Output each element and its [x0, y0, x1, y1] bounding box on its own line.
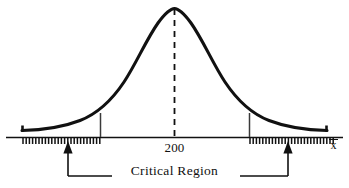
x-bar-symbol: x: [329, 140, 338, 151]
critical-region-caption: Critical Region: [0, 163, 349, 179]
mean-value-label: 200: [0, 140, 349, 156]
critical-region-figure: 200 Critical Region x: [0, 0, 349, 188]
x-bar-axis-label: x: [329, 139, 338, 151]
distribution-plot: [0, 0, 349, 188]
